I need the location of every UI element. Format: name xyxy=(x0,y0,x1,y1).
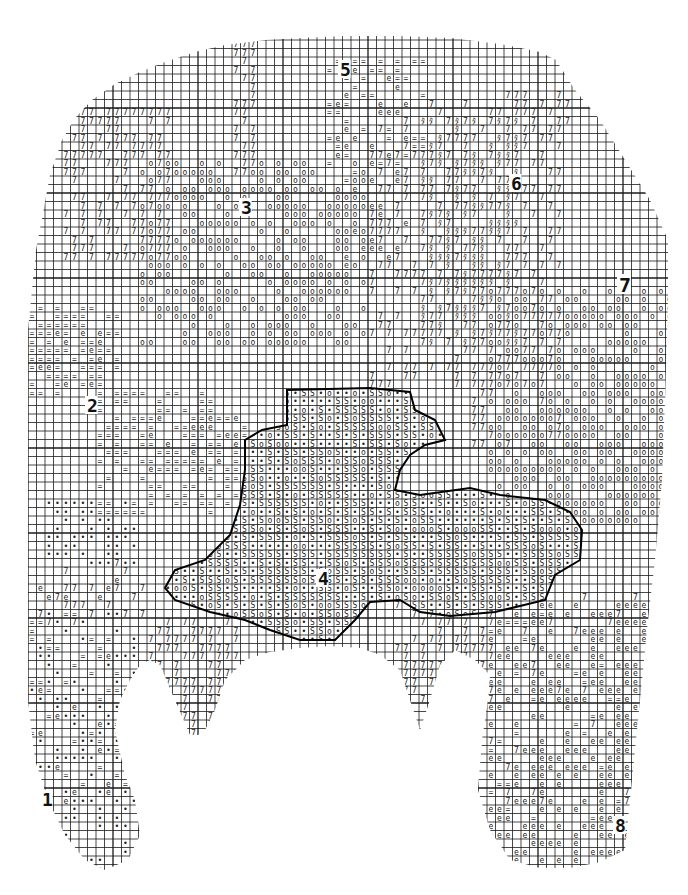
svg-text:e: e xyxy=(599,712,604,721)
svg-text:7: 7 xyxy=(395,644,400,653)
svg-text:=: = xyxy=(344,151,349,160)
svg-text:o: o xyxy=(149,278,154,287)
svg-text:7: 7 xyxy=(157,695,162,704)
svg-text:7: 7 xyxy=(463,185,468,194)
svg-text:=: = xyxy=(140,474,145,483)
svg-text:ﾀ: ﾀ xyxy=(497,185,501,194)
svg-text:=: = xyxy=(115,720,120,729)
svg-text:7: 7 xyxy=(81,168,86,177)
svg-text:ﾀ: ﾀ xyxy=(489,142,493,151)
svg-text:7: 7 xyxy=(514,746,519,755)
svg-text:e: e xyxy=(200,465,205,474)
svg-text:7: 7 xyxy=(506,321,511,330)
section-label-1: 1 xyxy=(42,789,53,810)
svg-text:7: 7 xyxy=(149,202,154,211)
svg-text:o: o xyxy=(667,516,672,525)
svg-text:o: o xyxy=(633,448,638,457)
svg-text:7: 7 xyxy=(395,210,400,219)
svg-text:e: e xyxy=(608,814,613,823)
svg-text:7: 7 xyxy=(183,652,188,661)
svg-text:=: = xyxy=(421,57,426,66)
svg-text:e: e xyxy=(565,703,570,712)
svg-text:7: 7 xyxy=(438,644,443,653)
svg-text:e: e xyxy=(497,627,502,636)
svg-text:7: 7 xyxy=(157,644,162,653)
svg-text:7: 7 xyxy=(149,712,154,721)
svg-text:7: 7 xyxy=(115,253,120,262)
svg-text:e: e xyxy=(55,329,60,338)
svg-text:•: • xyxy=(30,797,35,806)
svg-text:7: 7 xyxy=(557,185,562,194)
svg-text:o: o xyxy=(633,321,638,330)
svg-text:o: o xyxy=(208,219,213,228)
svg-text:e: e xyxy=(98,720,103,729)
svg-text:ﾀ: ﾀ xyxy=(480,202,484,211)
svg-text:e: e xyxy=(55,712,60,721)
svg-text:o: o xyxy=(633,499,638,508)
svg-text:ﾀ: ﾀ xyxy=(497,159,501,168)
svg-text:7: 7 xyxy=(514,193,519,202)
svg-text:=: = xyxy=(72,661,77,670)
svg-text:e: e xyxy=(217,457,222,466)
svg-text:7: 7 xyxy=(480,176,485,185)
svg-text:7: 7 xyxy=(251,100,256,109)
svg-text:7: 7 xyxy=(523,202,528,211)
svg-text:o: o xyxy=(548,465,553,474)
svg-text:=: = xyxy=(115,363,120,372)
svg-text:•: • xyxy=(72,542,77,551)
svg-text:7: 7 xyxy=(582,686,587,695)
svg-text:e: e xyxy=(106,652,111,661)
svg-text:•: • xyxy=(64,550,69,559)
svg-text:•: • xyxy=(123,533,128,542)
svg-text:e: e xyxy=(64,856,69,865)
svg-text:=: = xyxy=(64,771,69,780)
svg-text:o: o xyxy=(616,389,621,398)
svg-text:7: 7 xyxy=(81,244,86,253)
svg-text:7: 7 xyxy=(64,253,69,262)
svg-text:•: • xyxy=(72,678,77,687)
svg-text:7: 7 xyxy=(234,712,239,721)
svg-text:7: 7 xyxy=(446,185,451,194)
svg-text:o: o xyxy=(242,304,247,313)
svg-text:7: 7 xyxy=(106,125,111,134)
svg-text:7: 7 xyxy=(81,227,86,236)
svg-text:=: = xyxy=(132,703,137,712)
svg-text:7: 7 xyxy=(72,134,77,143)
svg-text:7: 7 xyxy=(81,151,86,160)
svg-text:7: 7 xyxy=(140,185,145,194)
svg-text:o: o xyxy=(523,304,528,313)
svg-text:=: = xyxy=(123,729,128,738)
svg-text:7: 7 xyxy=(480,661,485,670)
svg-text:•: • xyxy=(89,865,94,874)
svg-text:o: o xyxy=(174,236,179,245)
svg-text:=: = xyxy=(115,312,120,321)
svg-text:7: 7 xyxy=(446,117,451,126)
svg-text:o: o xyxy=(633,397,638,406)
svg-text:7: 7 xyxy=(480,423,485,432)
svg-text:=: = xyxy=(497,737,502,746)
svg-text:7: 7 xyxy=(387,363,392,372)
svg-text:7: 7 xyxy=(98,117,103,126)
svg-text:=: = xyxy=(489,627,494,636)
svg-text:ﾀ: ﾀ xyxy=(455,193,459,202)
svg-text:o: o xyxy=(166,202,171,211)
svg-text:o: o xyxy=(319,185,324,194)
svg-text:o: o xyxy=(208,329,213,338)
svg-text:S: S xyxy=(242,610,247,619)
svg-text:•: • xyxy=(81,533,86,542)
svg-text:e: e xyxy=(642,771,647,780)
svg-text:e: e xyxy=(574,771,579,780)
svg-text:•: • xyxy=(30,686,35,695)
svg-text:=: = xyxy=(174,465,179,474)
svg-text:7: 7 xyxy=(378,236,383,245)
svg-text:S: S xyxy=(523,593,528,602)
svg-text:o: o xyxy=(531,474,536,483)
svg-text:7: 7 xyxy=(217,627,222,636)
svg-text:=: = xyxy=(72,372,77,381)
svg-text:•: • xyxy=(183,593,188,602)
svg-text:o: o xyxy=(565,329,570,338)
svg-text:•: • xyxy=(370,593,375,602)
svg-text:o: o xyxy=(633,380,638,389)
svg-text:7: 7 xyxy=(174,712,179,721)
svg-text:7: 7 xyxy=(565,100,570,109)
